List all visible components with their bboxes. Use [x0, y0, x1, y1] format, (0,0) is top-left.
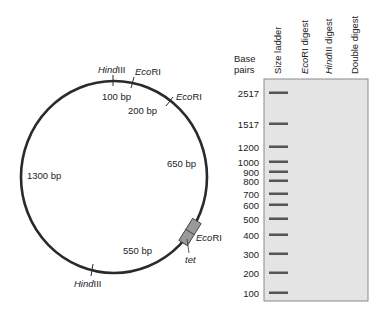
segment-label-650bp: 650 bp	[167, 158, 196, 169]
ladder-label: 1200	[238, 142, 259, 153]
ladder-band	[269, 146, 288, 149]
ladder-label: 2517	[238, 88, 259, 99]
ladder-band	[269, 272, 288, 275]
ladder-label: 700	[243, 189, 259, 200]
site-label-ecori-top: EcoRI	[135, 66, 161, 77]
ladder-band	[269, 253, 288, 256]
ladder-band	[269, 292, 288, 295]
segment-label-1300bp: 1300 bp	[27, 170, 61, 181]
lane-label-ecori-digest: EcoRI digest	[299, 20, 310, 74]
ladder-label: 300	[243, 249, 259, 260]
plasmid-map: HindIII EcoRI EcoRI EcoRI HindIII tet 10…	[21, 64, 222, 289]
ladder-label: 500	[243, 214, 259, 225]
gel-diagram: Base pairs Size ladder EcoRI digest Hind…	[234, 16, 368, 301]
lane-label-hindiii-digest: HindIII digest	[323, 18, 334, 74]
ladder-label: 1517	[238, 119, 259, 130]
site-label-hindiii-top: HindIII	[98, 64, 125, 75]
ladder-band	[269, 180, 288, 183]
segment-label-550bp: 550 bp	[123, 245, 152, 256]
ladder-label: 600	[243, 200, 259, 211]
lane-label-double-digest: Double digest	[349, 16, 360, 74]
gene-label-tet: tet	[185, 254, 196, 265]
ladder-band	[269, 171, 288, 174]
figure: HindIII EcoRI EcoRI EcoRI HindIII tet 10…	[0, 0, 384, 317]
site-label-hindiii-bottom: HindIII	[74, 278, 101, 289]
ladder-band	[269, 123, 288, 126]
ladder-band	[269, 193, 288, 196]
ladder-band	[269, 218, 288, 221]
ladder-label: 800	[243, 176, 259, 187]
axis-label-base: Base	[234, 53, 256, 64]
site-label-ecori-tet: EcoRI	[196, 232, 222, 243]
ladder-band	[269, 161, 288, 164]
segment-label-100bp: 100 bp	[102, 91, 131, 102]
gel-slab	[264, 79, 368, 301]
ladder-band	[269, 234, 288, 237]
ladder-label: 100	[243, 288, 259, 299]
ladder-band	[269, 204, 288, 207]
ladder-label: 400	[243, 230, 259, 241]
ladder-band	[269, 92, 288, 95]
ladder-label: 200	[243, 268, 259, 279]
axis-label-pairs: pairs	[234, 64, 255, 75]
site-label-ecori-right: EcoRI	[176, 91, 202, 102]
segment-label-200bp: 200 bp	[128, 105, 157, 116]
lane-label-size-ladder: Size ladder	[272, 26, 283, 74]
